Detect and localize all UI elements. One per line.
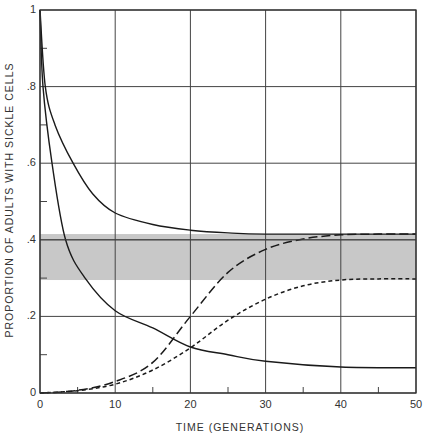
- chart-plot: [0, 0, 426, 438]
- x-tick-label: 20: [175, 398, 205, 410]
- plot-frame: [40, 10, 416, 393]
- x-tick-label: 0: [25, 398, 55, 410]
- x-axis-label: TIME (GENERATIONS): [140, 421, 340, 433]
- y-axis-label: PROPORTION OF ADULTS WITH SICKLE CELLS: [3, 50, 17, 350]
- y-tick-label: 0: [22, 386, 36, 398]
- y-tick-label: .4: [22, 233, 36, 245]
- x-tick-label: 50: [401, 398, 426, 410]
- x-tick-label: 10: [100, 398, 130, 410]
- y-tick-label: .8: [22, 80, 36, 92]
- grid-lines: [40, 10, 416, 393]
- minor-ticks: [40, 48, 378, 393]
- x-tick-label: 40: [326, 398, 356, 410]
- series-solid-lower: [40, 10, 416, 368]
- series-short-dash: [40, 279, 416, 393]
- y-tick-label: .2: [22, 309, 36, 321]
- y-tick-label: 1: [22, 3, 36, 15]
- y-tick-label: .6: [22, 156, 36, 168]
- x-tick-label: 30: [251, 398, 281, 410]
- series-solid-upper: [40, 10, 416, 234]
- series-lines: [40, 10, 416, 393]
